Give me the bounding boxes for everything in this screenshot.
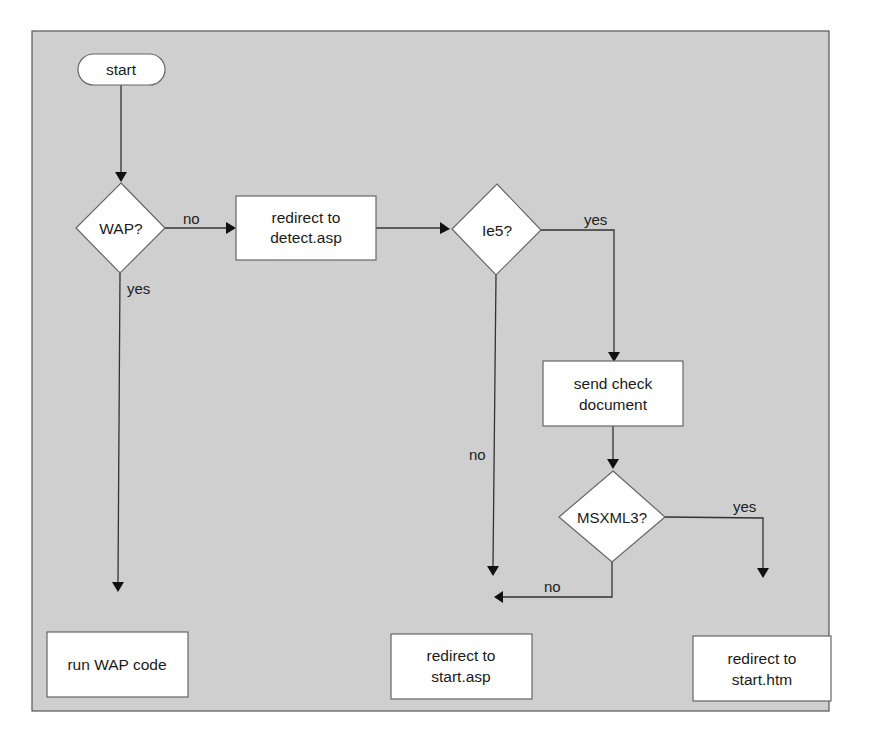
- node-redirect-detect-line2: detect.asp: [270, 229, 342, 246]
- node-send-check: send check document: [543, 361, 683, 426]
- node-redirect-start-htm: redirect to start.htm: [693, 636, 831, 701]
- node-start: start: [78, 54, 165, 85]
- edge-label-msxml3-no: no: [544, 578, 561, 595]
- node-send-check-line1: send check: [574, 375, 653, 392]
- node-redirect-start-asp: redirect to start.asp: [391, 634, 532, 699]
- diagram-panel: [32, 31, 829, 711]
- node-redirect-detect: redirect to detect.asp: [236, 196, 376, 260]
- node-ie5-label: Ie5?: [482, 222, 513, 239]
- process-shape: [543, 361, 683, 426]
- process-shape: [236, 196, 376, 260]
- node-redirect-detect-line1: redirect to: [272, 209, 341, 226]
- node-send-check-line2: document: [579, 396, 648, 413]
- edge-label-ie5-yes: yes: [584, 211, 607, 228]
- node-redirect-start-asp-line2: start.asp: [431, 668, 490, 685]
- node-redirect-start-asp-line1: redirect to: [427, 647, 496, 664]
- flowchart-canvas: no yes yes no yes no start WAP? redirect…: [0, 0, 882, 752]
- process-shape: [693, 636, 831, 701]
- process-shape: [391, 634, 532, 699]
- node-redirect-start-htm-line1: redirect to: [728, 650, 797, 667]
- edge-label-wap-yes: yes: [127, 280, 150, 297]
- edge-label-ie5-no: no: [469, 446, 486, 463]
- node-msxml3-label: MSXML3?: [577, 509, 647, 526]
- edge-label-msxml3-yes: yes: [733, 498, 756, 515]
- node-start-label: start: [106, 61, 137, 78]
- node-redirect-start-htm-line2: start.htm: [732, 671, 792, 688]
- node-wap-label: WAP?: [99, 220, 143, 237]
- node-run-wap: run WAP code: [47, 632, 188, 697]
- node-run-wap-label: run WAP code: [67, 656, 166, 673]
- edge-label-wap-no: no: [183, 210, 200, 227]
